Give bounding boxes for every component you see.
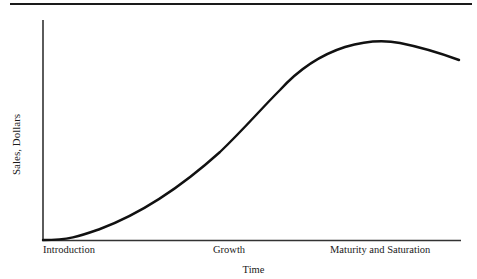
x-tick-growth: Growth xyxy=(213,244,245,255)
y-axis-label: Sales, Dollars xyxy=(10,114,22,175)
x-tick-introduction: Introduction xyxy=(43,244,95,255)
chart-plot-area xyxy=(0,0,477,279)
x-axis-label: Time xyxy=(0,264,477,275)
x-tick-maturity: Maturity and Saturation xyxy=(330,244,430,255)
sales-curve xyxy=(43,41,459,240)
